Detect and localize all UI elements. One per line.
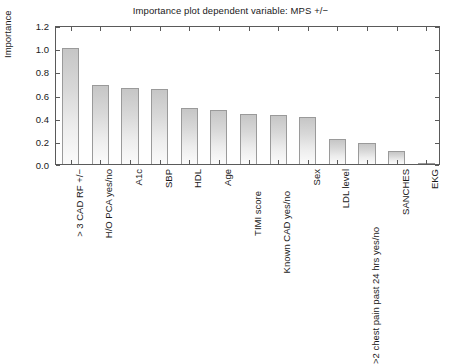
x-axis-tick	[397, 160, 398, 164]
y-axis-tick	[435, 50, 439, 51]
x-tick-label: H/O PCA yes/no	[103, 169, 114, 238]
x-tick-label: EKG	[429, 169, 440, 189]
bar	[181, 108, 198, 164]
y-tick-label: 1.2	[36, 21, 49, 32]
bars-layer	[56, 27, 439, 164]
y-axis-tick-labels: 1.21.00.80.60.40.20.0	[0, 26, 55, 165]
y-axis-tick	[435, 97, 439, 98]
y-tick-label: 0.6	[36, 90, 49, 101]
x-axis-tick	[249, 27, 250, 31]
x-axis-tick	[337, 27, 338, 31]
bar	[270, 115, 287, 164]
x-axis-tick	[219, 160, 220, 164]
y-axis-tick	[56, 50, 60, 51]
x-axis-tick	[249, 160, 250, 164]
x-axis-tick	[71, 27, 72, 31]
y-tick-label: 0.8	[36, 67, 49, 78]
x-axis-tick	[426, 27, 427, 31]
chart-title: Importance plot dependent variable: MPS …	[0, 5, 461, 16]
y-tick-label: 1.0	[36, 44, 49, 55]
x-tick-label: TIMI score	[252, 191, 263, 236]
x-axis-tick	[337, 160, 338, 164]
y-axis-tick	[56, 27, 60, 28]
y-axis-tick	[56, 143, 60, 144]
bar	[121, 88, 138, 164]
y-axis-tick	[56, 73, 60, 74]
x-axis-tick	[367, 160, 368, 164]
y-axis-tick	[435, 143, 439, 144]
x-axis-tick	[189, 27, 190, 31]
x-axis-tick	[130, 27, 131, 31]
x-axis-tick	[219, 27, 220, 31]
x-tick-label: LDL level	[340, 169, 351, 208]
plot-area	[55, 26, 440, 165]
x-axis-tick	[189, 160, 190, 164]
x-tick-label: SBP	[163, 169, 174, 188]
y-axis-tick	[56, 97, 60, 98]
x-axis-tick	[71, 160, 72, 164]
x-tick-label: Known CAD yes/no	[281, 191, 292, 273]
x-tick-label: A1c	[133, 169, 144, 185]
x-axis-tick	[278, 160, 279, 164]
x-axis-tick	[160, 27, 161, 31]
y-axis-tick	[435, 73, 439, 74]
bar	[62, 48, 79, 164]
x-axis-tick	[100, 160, 101, 164]
x-axis-tick	[367, 27, 368, 31]
y-axis-tick	[56, 120, 60, 121]
bar	[299, 117, 316, 164]
y-tick-label: 0.2	[36, 136, 49, 147]
x-tick-label: Age	[222, 169, 233, 186]
y-tick-label: 0.0	[36, 160, 49, 171]
x-axis-tick	[130, 160, 131, 164]
x-axis-tick	[278, 27, 279, 31]
x-axis-tick	[397, 27, 398, 31]
y-tick-label: 0.4	[36, 113, 49, 124]
x-axis-tick	[100, 27, 101, 31]
x-tick-label: Sex	[311, 169, 322, 185]
x-axis-tick-labels: > 3 CAD RF +/−H/O PCA yes/noA1cSBPHDLAge…	[55, 165, 440, 315]
x-tick-label: > 3 CAD RF +/−	[74, 169, 85, 237]
x-axis-tick	[160, 160, 161, 164]
bar	[240, 114, 257, 164]
x-tick-label: SANCHES	[400, 169, 411, 215]
y-axis-tick	[435, 120, 439, 121]
x-tick-label: HDL	[192, 169, 203, 188]
x-tick-label: >2 chest pain past 24 hrs yes/no	[370, 227, 381, 364]
bar	[92, 85, 109, 164]
bar	[210, 110, 227, 164]
x-axis-tick	[308, 27, 309, 31]
x-axis-tick	[308, 160, 309, 164]
y-axis-tick	[435, 27, 439, 28]
bar	[151, 89, 168, 164]
x-axis-tick	[426, 160, 427, 164]
